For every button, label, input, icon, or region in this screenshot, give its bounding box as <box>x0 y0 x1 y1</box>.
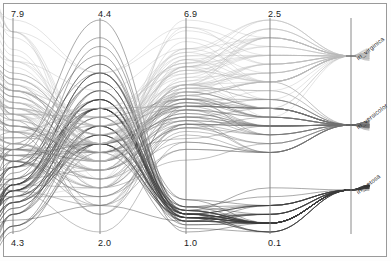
axis-min-label-4: 0.1 <box>268 238 281 248</box>
parallel-coordinates-canvas <box>0 0 391 261</box>
axis-max-label-3: 6.9 <box>184 9 197 19</box>
axis-min-label-1: 4.3 <box>11 238 24 248</box>
data-curve <box>0 55 369 117</box>
data-curve <box>0 38 369 124</box>
data-curve <box>0 91 369 224</box>
axis-max-label-4: 2.5 <box>268 9 281 19</box>
data-curve <box>0 144 369 232</box>
axis-min-label-2: 2.0 <box>98 238 111 248</box>
axis-max-label-2: 4.4 <box>98 9 111 19</box>
data-curves-group <box>0 0 369 259</box>
axis-min-label-3: 1.0 <box>184 238 197 248</box>
axis-max-label-1: 7.9 <box>11 9 24 19</box>
parallel-coordinates-figure: 7.94.46.92.5 4.32.01.00.1 iri_virginicai… <box>0 0 391 261</box>
